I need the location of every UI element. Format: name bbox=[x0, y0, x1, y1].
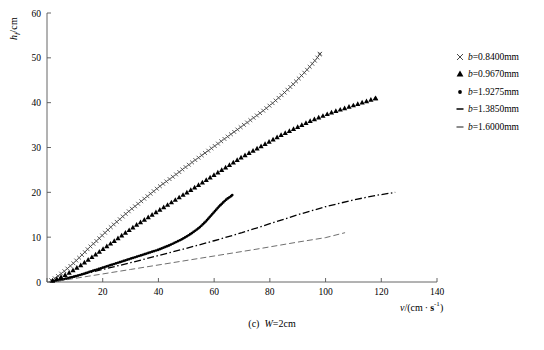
data-point-triangle bbox=[130, 225, 135, 230]
data-point-triangle bbox=[373, 95, 378, 100]
data-series bbox=[49, 52, 322, 282]
data-point-triangle bbox=[104, 244, 109, 249]
data-point-triangle bbox=[115, 236, 120, 241]
data-series-layer bbox=[49, 52, 395, 283]
data-point-cross bbox=[190, 160, 194, 164]
data-point-cross bbox=[180, 168, 184, 172]
caption-prefix: (c) bbox=[248, 318, 259, 329]
legend-item[interactable]: b=1.9275mm bbox=[452, 83, 519, 101]
data-point-triangle bbox=[119, 233, 124, 238]
data-point-cross bbox=[133, 204, 137, 208]
x-axis-label: v/(cm·s-1) bbox=[400, 300, 443, 313]
data-point-cross bbox=[161, 182, 165, 186]
data-point-cross bbox=[229, 132, 233, 136]
y-axis-tick-label: 50 bbox=[32, 53, 42, 63]
data-point-cross bbox=[184, 165, 188, 169]
legend-item-label: b=0.8400mm bbox=[468, 52, 519, 62]
data-point-triangle bbox=[123, 230, 128, 235]
legend-marker-dash-icon bbox=[452, 121, 468, 133]
legend-item-value: =1.3850mm bbox=[473, 104, 519, 114]
data-point-triangle bbox=[70, 267, 75, 272]
legend-item[interactable]: b=1.3850mm bbox=[452, 101, 519, 119]
data-point-cross bbox=[239, 125, 243, 129]
data-point-triangle bbox=[211, 172, 216, 177]
data-point-cross bbox=[252, 116, 256, 120]
data-point-cross bbox=[315, 56, 319, 60]
data-point-triangle bbox=[108, 241, 113, 246]
chart-legend: b=0.8400mmb=0.9670mmb=1.9275mmb=1.3850mm… bbox=[452, 48, 519, 136]
data-point-cross bbox=[158, 184, 162, 188]
data-point-triangle bbox=[316, 115, 321, 120]
data-point-triangle bbox=[138, 220, 143, 225]
x-axis-tick-label: 40 bbox=[154, 287, 164, 297]
data-point-triangle bbox=[200, 180, 205, 185]
data-point-triangle bbox=[169, 200, 174, 205]
data-point-triangle bbox=[146, 215, 151, 220]
figure-container: 204060801001201400102030405060 hf/cm v/(… bbox=[0, 0, 544, 350]
data-point-triangle bbox=[351, 103, 356, 108]
data-point-cross bbox=[242, 123, 246, 127]
legend-item[interactable]: b=1.6000mm bbox=[452, 118, 519, 136]
data-point-triangle bbox=[82, 260, 87, 265]
data-point-triangle bbox=[97, 249, 102, 254]
y-axis-label: hf/cm bbox=[8, 0, 21, 40]
data-point-cross bbox=[264, 106, 268, 110]
data-point-triangle bbox=[165, 202, 170, 207]
data-point-cross bbox=[235, 128, 239, 132]
data-point-triangle bbox=[161, 205, 166, 210]
x-axis-tick-label: 120 bbox=[374, 287, 389, 297]
legend-item-label: b=1.6000mm bbox=[468, 122, 519, 132]
data-point-cross bbox=[216, 142, 220, 146]
y-axis-tick-label: 40 bbox=[32, 98, 42, 108]
legend-marker-dashdot-icon bbox=[452, 103, 468, 115]
legend-item-value: =1.6000mm bbox=[473, 122, 519, 132]
data-point-triangle bbox=[346, 104, 351, 109]
data-point-triangle bbox=[149, 212, 154, 217]
data-point-cross bbox=[268, 104, 272, 108]
data-point-cross bbox=[248, 118, 252, 122]
data-point-cross bbox=[258, 111, 262, 115]
data-point-triangle bbox=[320, 113, 325, 118]
x-axis-label-close: ) bbox=[440, 302, 443, 313]
data-point-triangle bbox=[333, 108, 338, 113]
data-point-triangle bbox=[100, 246, 105, 251]
legend-item[interactable]: b=0.8400mm bbox=[452, 48, 519, 66]
data-point-triangle bbox=[342, 105, 347, 110]
data-point-triangle bbox=[219, 167, 224, 172]
data-point-cross bbox=[177, 170, 181, 174]
data-point-cross bbox=[226, 135, 230, 139]
data-point-cross bbox=[187, 163, 191, 167]
data-point-triangle bbox=[127, 227, 132, 232]
data-point-triangle bbox=[208, 175, 213, 180]
data-point-cross bbox=[245, 121, 249, 125]
x-axis-tick-label: 140 bbox=[430, 287, 445, 297]
y-axis-label-main: h bbox=[8, 35, 19, 40]
data-point-triangle bbox=[196, 182, 201, 187]
data-point-cross bbox=[255, 114, 259, 118]
data-point-triangle bbox=[89, 254, 94, 259]
data-point-triangle bbox=[360, 100, 365, 105]
data-point-cross bbox=[313, 59, 317, 63]
data-point-cross bbox=[223, 137, 227, 141]
data-point-triangle bbox=[231, 160, 236, 165]
data-point-triangle bbox=[134, 222, 139, 227]
data-point-triangle bbox=[364, 98, 369, 103]
data-point-triangle bbox=[325, 111, 330, 116]
data-point-cross bbox=[130, 207, 134, 211]
data-point-triangle bbox=[78, 262, 83, 267]
data-point-triangle bbox=[93, 252, 98, 257]
data-point-cross bbox=[164, 180, 168, 184]
legend-item-value: =0.9670mm bbox=[473, 69, 519, 79]
legend-item-value: =1.9275mm bbox=[473, 87, 519, 97]
data-point-cross bbox=[127, 209, 131, 213]
data-point-triangle bbox=[173, 197, 178, 202]
y-axis-label-unit: /cm bbox=[8, 17, 19, 33]
data-point-cross bbox=[197, 156, 201, 160]
data-point-cross bbox=[149, 192, 153, 196]
data-point-triangle bbox=[308, 118, 313, 123]
data-point-cross bbox=[193, 158, 197, 162]
legend-item[interactable]: b=0.9670mm bbox=[452, 66, 519, 84]
legend-item-label: b=1.3850mm bbox=[468, 104, 519, 114]
data-point-cross bbox=[203, 151, 207, 155]
data-point-cross bbox=[232, 130, 236, 134]
